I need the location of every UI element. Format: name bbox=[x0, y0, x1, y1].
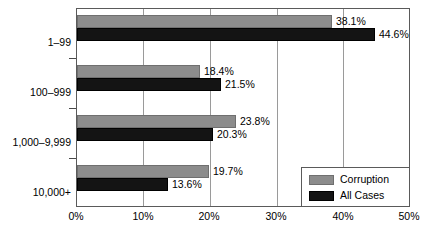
bar-corruption-10000-plus bbox=[77, 165, 209, 178]
value-label-corruption-1000-9999: 23.8% bbox=[240, 115, 270, 128]
x-axis-label-40: 40% bbox=[323, 211, 363, 222]
legend-item-all-cases: All Cases bbox=[309, 188, 409, 203]
chart-legend: Corruption All Cases bbox=[301, 167, 410, 207]
value-label-corruption-100-999: 18.4% bbox=[204, 65, 234, 78]
bar-all-cases-1000-9999 bbox=[77, 128, 213, 141]
legend-swatch-corruption bbox=[309, 175, 334, 185]
bar-corruption-1-99 bbox=[77, 15, 332, 28]
x-axis-label-20: 20% bbox=[189, 211, 229, 222]
plot-area: 38.1% 44.6% 18.4% 21.5% 23.8% 20.3% 19.7… bbox=[76, 8, 410, 207]
legend-label-all-cases: All Cases bbox=[340, 190, 384, 201]
legend-item-corruption: Corruption bbox=[309, 172, 409, 187]
x-axis-label-30: 30% bbox=[256, 211, 296, 222]
bar-corruption-100-999 bbox=[77, 65, 200, 78]
y-axis-tick-3 bbox=[69, 158, 76, 159]
y-axis-label-10000-plus: 10,000+ bbox=[0, 187, 71, 198]
value-label-all-cases-100-999: 21.5% bbox=[225, 78, 255, 91]
x-axis-label-10: 10% bbox=[123, 211, 163, 222]
y-axis-label-1-99: 1–99 bbox=[0, 37, 71, 48]
y-axis-label-100-999: 100–999 bbox=[0, 87, 71, 98]
value-label-corruption-10000-plus: 19.7% bbox=[213, 165, 243, 178]
bar-all-cases-1-99 bbox=[77, 28, 375, 41]
value-label-all-cases-1000-9999: 20.3% bbox=[217, 128, 247, 141]
bar-all-cases-100-999 bbox=[77, 78, 221, 91]
legend-swatch-all-cases bbox=[309, 191, 334, 201]
y-axis-tick-1 bbox=[69, 58, 76, 59]
bar-corruption-1000-9999 bbox=[77, 115, 236, 128]
value-label-all-cases-10000-plus: 13.6% bbox=[172, 178, 202, 191]
legend-label-corruption: Corruption bbox=[340, 174, 389, 185]
value-label-all-cases-1-99: 44.6% bbox=[379, 28, 409, 41]
x-axis-label-50: 50% bbox=[389, 211, 428, 222]
bar-all-cases-10000-plus bbox=[77, 178, 168, 191]
x-axis-label-0: 0% bbox=[56, 211, 96, 222]
bar-chart: 38.1% 44.6% 18.4% 21.5% 23.8% 20.3% 19.7… bbox=[0, 0, 428, 235]
y-axis-tick-2 bbox=[69, 108, 76, 109]
value-label-corruption-1-99: 38.1% bbox=[336, 15, 366, 28]
y-axis-label-1000-9999: 1,000–9,999 bbox=[0, 137, 71, 148]
